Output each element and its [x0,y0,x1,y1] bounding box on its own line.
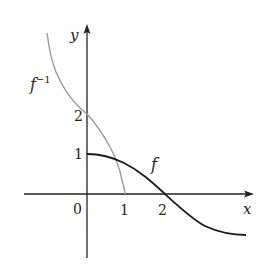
y-tick-label-1: 1 [74,146,83,162]
y-axis-label: y [69,26,79,44]
y-axis [84,24,91,258]
f-inverse-label: f−1 [29,74,51,94]
f-inverse-curve [47,33,125,194]
origin-label: 0 [73,201,82,217]
x-axis-label: x [243,200,252,218]
x-axis [24,191,254,198]
y-tick-label-2: 2 [74,108,83,124]
f-label: f [150,155,160,174]
graph-canvas: y x 0 1 2 1 2 f f−1 [0,0,274,267]
x-tick-label-2: 2 [158,202,167,218]
x-tick-label-1: 1 [120,202,129,218]
